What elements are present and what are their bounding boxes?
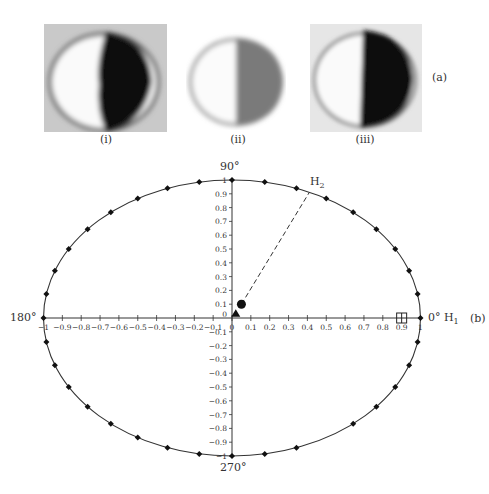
diamond-marker <box>293 185 299 191</box>
diamond-marker <box>418 315 424 321</box>
y-tick-label: −0.7 <box>209 411 227 420</box>
x-tick-label: −0.3 <box>166 323 184 332</box>
y-tick-label: 0.7 <box>215 217 227 226</box>
diamond-marker <box>43 339 49 345</box>
angle-label-0: 0° <box>428 311 441 324</box>
diamond-marker <box>165 445 171 451</box>
y-tick-label: 0.8 <box>215 204 227 213</box>
diamond-marker <box>108 209 114 215</box>
angle-label-270: 270° <box>220 461 247 474</box>
y-tick-label: −0.4 <box>209 369 227 378</box>
x-tick-label: 0.7 <box>358 323 370 332</box>
x-tick-label: 0.3 <box>283 323 295 332</box>
y-tick-label: 0.5 <box>215 245 227 254</box>
angle-label-180: 180° <box>10 311 37 324</box>
diamond-marker <box>135 195 141 201</box>
h1-axis-label: H1 <box>444 311 459 324</box>
x-tick-label: −0.8 <box>72 323 90 332</box>
x-tick-label: 0.6 <box>339 323 351 332</box>
y-tick-label: −0.6 <box>209 397 227 406</box>
x-tick-label: −0.7 <box>91 323 109 332</box>
diamond-marker <box>293 445 299 451</box>
diamond-marker <box>415 339 421 345</box>
x-tick-label: 0.8 <box>377 323 389 332</box>
x-tick-label: 0.2 <box>264 323 276 332</box>
y-tick-label: −1 <box>216 452 227 461</box>
y-tick-label: 1 <box>222 176 227 185</box>
diamond-marker <box>262 451 268 457</box>
y-tick-label: −0.9 <box>209 438 227 447</box>
diamond-marker <box>196 179 202 185</box>
y-tick-label: −0.2 <box>209 342 227 351</box>
diamond-marker <box>108 421 114 427</box>
x-tick-label: −0.9 <box>53 323 71 332</box>
y-tick-label: 0.6 <box>215 231 227 240</box>
y-tick-label: 0.9 <box>215 190 227 199</box>
triangle-marker <box>231 309 240 317</box>
h2-dashed-line <box>241 192 309 304</box>
angle-label-0-h1: 0° H1 <box>428 311 459 326</box>
diamond-marker <box>229 177 235 183</box>
y-tick-label: −0.3 <box>209 355 227 364</box>
x-tick-label: −0.5 <box>129 323 147 332</box>
diamond-marker <box>135 435 141 441</box>
diamond-marker <box>165 185 171 191</box>
panel-label-b: (b) <box>470 312 486 325</box>
diamond-marker <box>262 179 268 185</box>
x-tick-label: 0.4 <box>301 323 313 332</box>
diamond-marker <box>229 453 235 459</box>
circle-marker <box>237 300 246 309</box>
x-tick-label: −0.6 <box>110 323 128 332</box>
diamond-marker <box>350 421 356 427</box>
y-tick-label: 0.3 <box>215 273 227 282</box>
y-tick-label: −0.8 <box>209 424 227 433</box>
h2-label: H2 <box>310 175 325 190</box>
x-tick-label: 0.5 <box>320 323 332 332</box>
diamond-marker <box>41 315 47 321</box>
diamond-marker <box>323 195 329 201</box>
x-tick-label: 1 <box>418 323 423 332</box>
x-tick-label: −0.2 <box>185 323 203 332</box>
x-tick-label: 0.9 <box>396 323 408 332</box>
y-tick-label: 0.2 <box>215 286 227 295</box>
y-tick-label: 0.1 <box>215 300 227 309</box>
angle-label-90: 90° <box>220 160 240 173</box>
diamond-marker <box>52 362 58 368</box>
diamond-marker <box>52 268 58 274</box>
diamond-marker <box>406 268 412 274</box>
x-tick-label: 0.1 <box>245 323 257 332</box>
x-tick-label: −0.4 <box>147 323 165 332</box>
polar-ellipse-chart: −1−0.9−0.8−0.7−0.6−0.5−0.4−0.3−0.2−0.100… <box>0 0 489 494</box>
diamond-marker <box>196 451 202 457</box>
diamond-marker <box>406 362 412 368</box>
y-tick-label: −0.5 <box>209 383 227 392</box>
diamond-marker <box>350 209 356 215</box>
diamond-marker <box>43 291 49 297</box>
x-tick-label: −1 <box>38 323 49 332</box>
y-tick-label: −0.1 <box>209 328 227 337</box>
y-tick-label: 0.4 <box>215 259 227 268</box>
diamond-marker <box>415 291 421 297</box>
x-tick-label: 0 <box>230 323 235 332</box>
y-tick-label: 0 <box>222 310 227 319</box>
